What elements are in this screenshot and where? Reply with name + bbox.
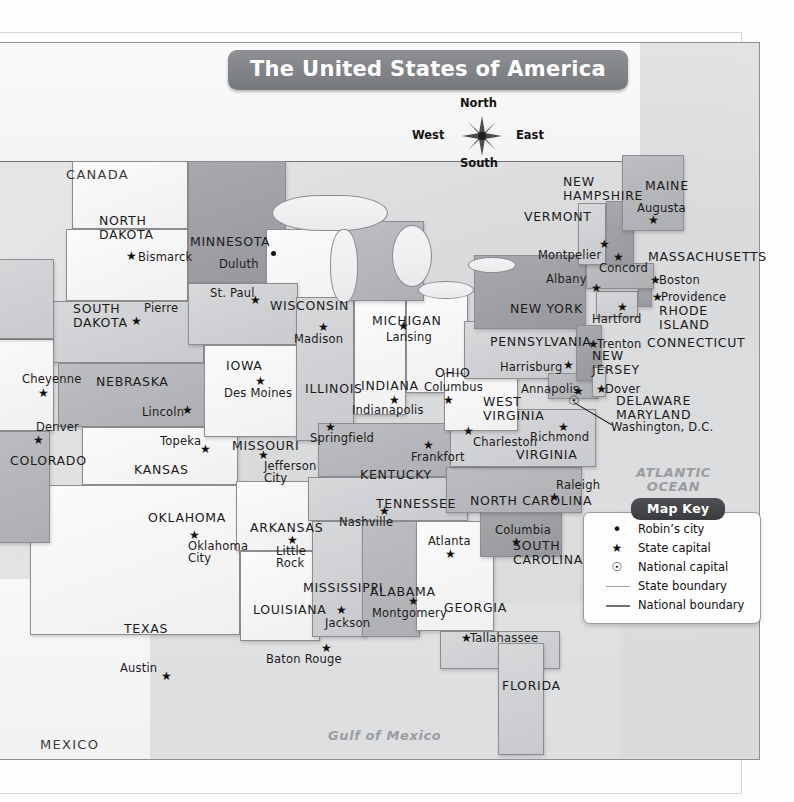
state-shape-kansas <box>58 363 216 427</box>
star-icon: ★ <box>602 539 632 558</box>
capital-star-providence: ★ <box>652 291 663 303</box>
national-boundary-swatch <box>606 605 630 607</box>
map-title: The United States of America <box>228 50 628 90</box>
capital-star-jefferson-city: ★ <box>258 449 269 461</box>
lake-erie <box>418 281 474 299</box>
capital-star-lansing: ★ <box>398 320 409 332</box>
dot-icon: • <box>602 520 632 539</box>
capital-star-trenton: ★ <box>588 338 599 350</box>
map-key-row-national-capital: ☉National capital <box>594 558 754 577</box>
map-key-panel: •Robin’s city★State capital☉National cap… <box>583 512 761 624</box>
capital-star-augusta: ★ <box>648 214 659 226</box>
state-shape-north-dakota <box>72 161 188 229</box>
capital-star-columbia: ★ <box>511 536 522 548</box>
map-key-label: State boundary <box>638 577 727 596</box>
state-shape-iowa <box>188 283 298 345</box>
capital-star-denver: ★ <box>33 434 44 446</box>
capital-star-topeka: ★ <box>200 443 211 455</box>
compass-rose: North South West East <box>412 96 552 172</box>
capital-star-nashville: ★ <box>379 505 390 517</box>
us-map <box>0 42 760 760</box>
compass-south-label: South <box>460 156 498 170</box>
state-shape-rhode-island <box>638 287 652 307</box>
capital-star-little-rock: ★ <box>287 534 298 546</box>
capital-star-montpelier: ★ <box>599 238 610 250</box>
state-shape-pennsylvania <box>464 321 578 379</box>
capital-star-richmond: ★ <box>558 421 569 433</box>
state-shape-alabama <box>362 521 420 637</box>
capital-star-pierre: ★ <box>131 315 142 327</box>
capital-star-st-paul: ★ <box>250 294 261 306</box>
state-shape-texas <box>30 485 240 635</box>
capital-star-springfield: ★ <box>325 421 336 433</box>
lake-ontario <box>468 257 516 273</box>
state-boundary-swatch <box>606 586 630 587</box>
capital-star-raleigh: ★ <box>549 491 560 503</box>
map-key-label: State capital <box>638 539 711 558</box>
capital-star-des-moines: ★ <box>255 375 266 387</box>
capital-star-albany: ★ <box>591 282 602 294</box>
map-key-row-state-capital: ★State capital <box>594 539 754 558</box>
map-key-row-state-boundary: State boundary <box>594 577 754 596</box>
compass-west-label: West <box>412 128 444 142</box>
state-shape-colorado <box>0 339 54 431</box>
lake-superior <box>272 195 388 231</box>
capital-star-austin: ★ <box>161 670 172 682</box>
state-shape-louisiana <box>240 551 320 641</box>
map-key-title: Map Key <box>631 498 725 520</box>
capital-star-indianapolis: ★ <box>389 394 400 406</box>
state-shape-florida-peninsula <box>498 643 544 755</box>
state-shape-new-mexico <box>0 431 50 543</box>
capital-star-boston: ★ <box>650 274 661 286</box>
state-shape-north-carolina <box>446 467 582 513</box>
capital-star-madison: ★ <box>318 321 329 333</box>
capital-star-jackson: ★ <box>336 604 347 616</box>
state-shape-west-virginia <box>444 373 518 431</box>
capital-star-bismarck: ★ <box>126 250 137 262</box>
capital-star-charleston: ★ <box>463 425 474 437</box>
capital-star-frankfort: ★ <box>423 439 434 451</box>
lake-michigan <box>330 229 358 303</box>
state-shape-nebraska <box>52 301 204 363</box>
capital-star-atlanta: ★ <box>445 548 456 560</box>
compass-east-label: East <box>516 128 544 142</box>
capital-star-columbus: ★ <box>443 394 454 406</box>
capital-star-baton-rouge: ★ <box>321 642 332 654</box>
lake-huron <box>392 225 432 287</box>
map-page: The United States of America North South… <box>0 0 794 802</box>
capital-star-hartford: ★ <box>617 301 628 313</box>
capital-star-cheyenne: ★ <box>38 387 49 399</box>
state-shape-south-dakota <box>66 229 188 301</box>
compass-north-label: North <box>460 96 497 110</box>
map-key-label: National capital <box>638 558 728 577</box>
capital-star-tallahassee: ★ <box>461 632 472 644</box>
capital-star-harrisburg: ★ <box>563 359 574 371</box>
map-key-row-robin-s-city: •Robin’s city <box>594 520 754 539</box>
map-key-label: Robin’s city <box>638 520 704 539</box>
capital-star-montgomery: ★ <box>408 595 419 607</box>
natcap-icon: ☉ <box>602 558 632 577</box>
state-shape-mississippi <box>312 521 366 637</box>
state-shape-vermont <box>578 203 606 265</box>
capital-star-concord: ★ <box>613 251 624 263</box>
state-shape-wyoming <box>0 259 54 339</box>
state-shape-arkansas <box>236 481 314 551</box>
capital-star-dover: ★ <box>596 383 607 395</box>
capital-star-lincoln: ★ <box>182 404 193 416</box>
map-key-row-national-boundary: National boundary <box>594 596 754 615</box>
capital-star-oklahoma-city: ★ <box>189 529 200 541</box>
compass-star-icon <box>462 116 502 156</box>
city-dot-duluth <box>271 251 276 256</box>
map-key-label: National boundary <box>638 596 744 615</box>
